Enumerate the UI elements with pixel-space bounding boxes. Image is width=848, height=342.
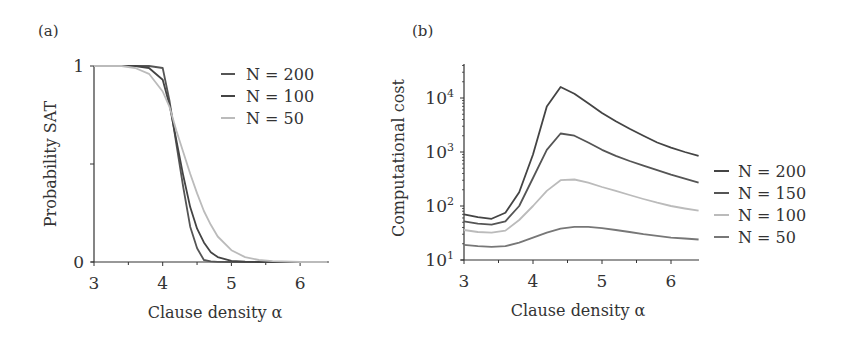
panel-b-legend-label: N = 150 [738,184,806,203]
panel-b-y-tick-label: 101 [425,249,454,270]
panel-a-x-tick-label: 6 [295,273,306,293]
panel-b-y-tick-label: 103 [425,141,454,162]
panel-b-y-axis-label: Computational cost [389,78,408,237]
panel-b-axes: 3456101102103104 [425,64,699,291]
panel-b-legend: N = 200N = 150N = 100N = 50 [714,162,806,247]
panel-a-legend-label: N = 100 [246,87,314,106]
panel-a-y-axis-label: Probability SAT [41,101,60,228]
panel-a-y-tick-label: 0 [73,252,84,272]
panel-b-series-line [464,180,699,233]
panel-b-x-tick-label: 6 [666,271,677,291]
panel-a-legend-label: N = 200 [246,65,314,84]
panel-a: (a) Probability SAT Clause density α 345… [38,22,329,322]
panel-b-x-tick-label: 4 [528,271,539,291]
panel-a-y-tick-label: 1 [73,56,84,76]
figure: (a) Probability SAT Clause density α 345… [0,0,848,342]
panel-b-series-line [464,134,699,225]
panel-b-legend-label: N = 50 [738,228,796,247]
panel-b-y-tick-label: 104 [425,87,454,108]
panel-a-x-tick-label: 5 [226,273,237,293]
panel-b-label: (b) [412,22,433,40]
panel-b-legend-label: N = 200 [738,162,806,181]
panel-a-x-tick-label: 3 [89,273,100,293]
panel-a-x-tick-label: 4 [157,273,168,293]
panel-a-label: (a) [38,22,59,40]
panel-b-y-tick-label: 102 [425,195,454,216]
panel-b-series-line [464,227,699,247]
panel-b-x-tick-label: 5 [597,271,608,291]
panel-b-series-line [464,87,699,219]
panel-b-x-axis-label: Clause density α [511,301,646,320]
panel-b-x-tick-label: 3 [459,271,470,291]
panel-b: (b) Computational cost Clause density α … [389,22,806,320]
panel-a-x-axis-label: Clause density α [148,303,283,322]
panel-a-legend: N = 200N = 100N = 50 [221,65,314,128]
panel-b-legend-label: N = 100 [738,206,806,225]
panel-a-legend-label: N = 50 [246,109,304,128]
panel-b-lines [464,87,699,247]
